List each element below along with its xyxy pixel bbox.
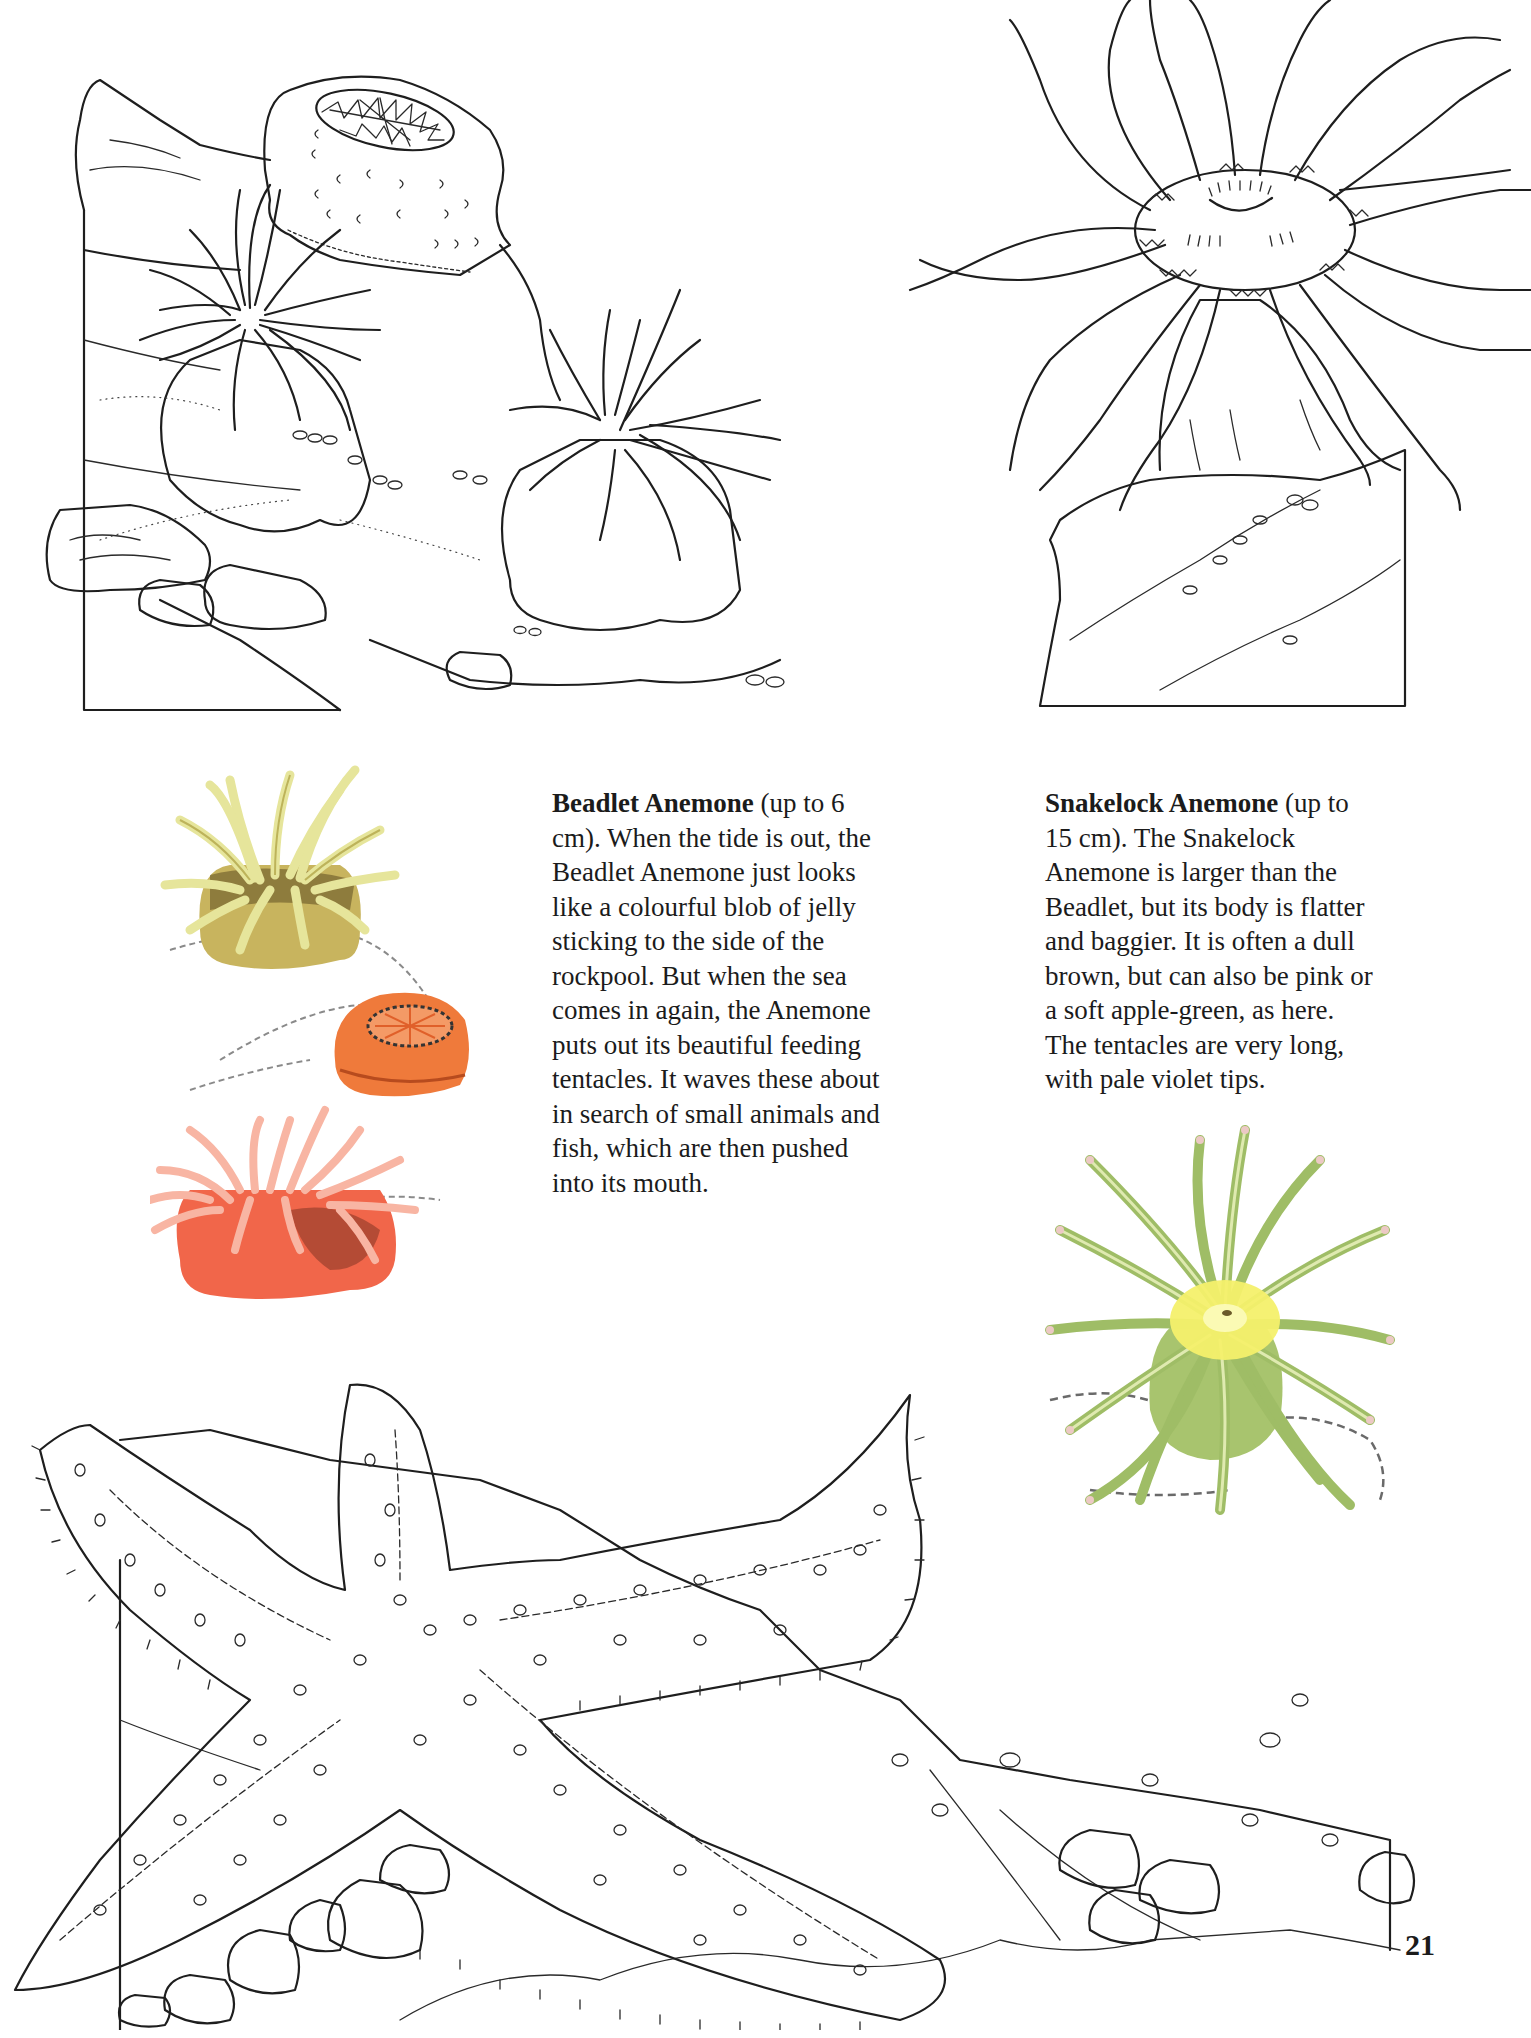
snakelock-first-line: Snakelock Anemone (up to [1045,786,1475,821]
snakelock-line: Anemone is larger than the [1045,855,1475,890]
beadlet-line: cm). When the tide is out, the [552,821,972,856]
snakelock-line: 15 cm). The Snakelock [1045,821,1475,856]
beadlet-line: rockpool. But when the sea [552,959,972,994]
snakelock-line: a soft apple-green, as here. [1045,993,1475,1028]
snakelock-line: Beadlet, but its body is flatter [1045,890,1475,925]
beadlet-line: like a colourful blob of jelly [552,890,972,925]
beadlet-line: in search of small animals and [552,1097,972,1132]
snakelock-line: with pale violet tips. [1045,1062,1475,1097]
snakelock-description: Snakelock Anemone (up to 15 cm). The Sna… [1045,786,1475,1097]
beadlet-line: fish, which are then pushed [552,1131,972,1166]
page-number: 21 [1405,1928,1435,1962]
snakelock-line: brown, but can also be pink or [1045,959,1475,994]
beadlet-first-line: Beadlet Anemone (up to 6 [552,786,972,821]
beadlet-colored-illustration [150,760,480,1320]
beadlet-line: Beadlet Anemone just looks [552,855,972,890]
beadlet-line: puts out its beautiful feeding [552,1028,972,1063]
snakelock-line-illustration [900,0,1531,720]
beadlet-size: (up to 6 [761,788,845,818]
starfish-line-illustration [0,1340,1420,2030]
snakelock-line: and baggier. It is often a dull [1045,924,1475,959]
beadlet-description: Beadlet Anemone (up to 6 cm). When the t… [552,786,972,1200]
snakelock-title: Snakelock Anemone [1045,788,1278,818]
beadlet-line: comes in again, the Anemone [552,993,972,1028]
beadlet-line-illustration [40,40,1000,720]
beadlet-line: tentacles. It waves these about [552,1062,972,1097]
beadlet-title: Beadlet Anemone [552,788,754,818]
beadlet-line: sticking to the side of the [552,924,972,959]
beadlet-line: into its mouth. [552,1166,972,1201]
snakelock-line: The tentacles are very long, [1045,1028,1475,1063]
snakelock-size: (up to [1285,788,1349,818]
